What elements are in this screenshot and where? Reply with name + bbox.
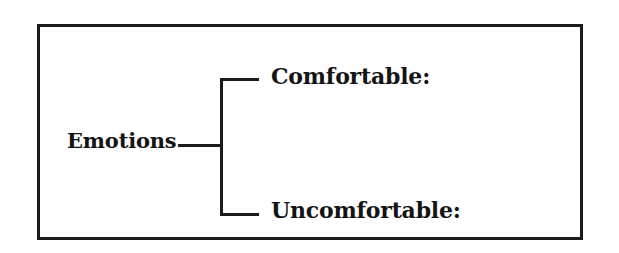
bracket-spine xyxy=(220,78,223,216)
bracket-tree: Emotions Comfortable: Uncomfortable: xyxy=(0,0,619,253)
root-connector-stem xyxy=(178,144,223,147)
bracket-arm-uncomfortable xyxy=(220,213,259,216)
emotions-bracket-diagram: Emotions Comfortable: Uncomfortable: xyxy=(0,0,619,253)
bracket-arm-comfortable xyxy=(220,78,259,81)
child-node-label-uncomfortable: Uncomfortable: xyxy=(271,197,461,223)
root-node-label: Emotions xyxy=(67,129,176,153)
child-node-label-comfortable: Comfortable: xyxy=(271,63,430,89)
